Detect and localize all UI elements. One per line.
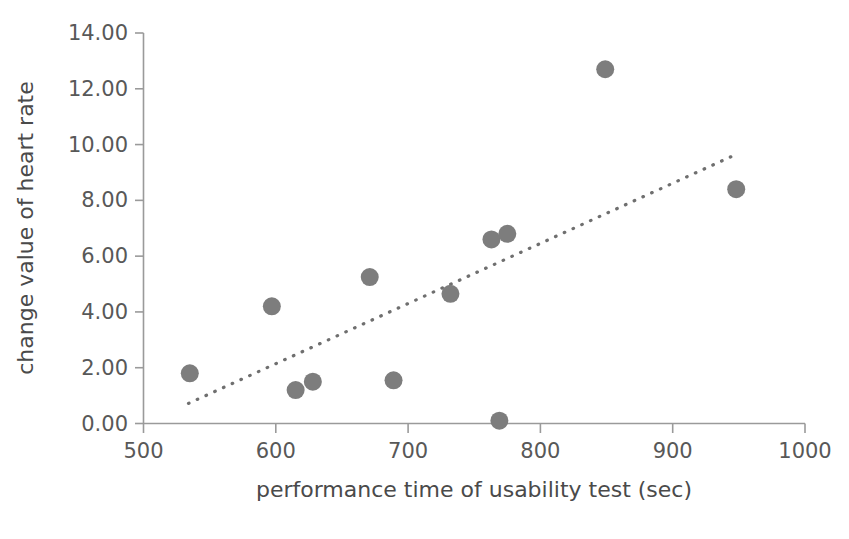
y-axis: 0.002.004.006.008.0010.0012.0014.00 bbox=[68, 21, 144, 436]
y-tick-label: 4.00 bbox=[81, 300, 128, 324]
x-tick-label: 700 bbox=[388, 439, 428, 463]
data-point bbox=[263, 297, 281, 315]
data-point-markers bbox=[181, 60, 745, 429]
y-tick-label: 12.00 bbox=[68, 77, 128, 101]
y-tick-label: 10.00 bbox=[68, 133, 128, 157]
y-tick-marks bbox=[135, 33, 144, 424]
data-point bbox=[490, 412, 508, 430]
chart-figure: 0.002.004.006.008.0010.0012.0014.00 5006… bbox=[0, 0, 849, 539]
x-tick-label: 600 bbox=[256, 439, 296, 463]
x-tick-label: 800 bbox=[520, 439, 560, 463]
y-tick-label: 14.00 bbox=[68, 21, 128, 45]
data-point bbox=[361, 268, 379, 286]
x-tick-label: 1000 bbox=[778, 439, 831, 463]
y-tick-label: 0.00 bbox=[81, 412, 128, 436]
data-point bbox=[727, 180, 745, 198]
y-tick-label: 2.00 bbox=[81, 356, 128, 380]
trendline bbox=[188, 154, 737, 404]
y-tick-label: 6.00 bbox=[81, 244, 128, 268]
x-tick-labels: 5006007008009001000 bbox=[123, 439, 831, 463]
x-axis-title: performance time of usability test (sec) bbox=[256, 477, 692, 502]
data-point bbox=[181, 364, 199, 382]
data-point bbox=[304, 373, 322, 391]
y-axis-title: change value of heart rate bbox=[13, 81, 38, 375]
y-tick-label: 8.00 bbox=[81, 188, 128, 212]
x-axis: 5006007008009001000 bbox=[123, 424, 831, 464]
x-tick-label: 900 bbox=[653, 439, 693, 463]
scatter-plot: 0.002.004.006.008.0010.0012.0014.00 5006… bbox=[0, 0, 849, 539]
data-point bbox=[441, 285, 459, 303]
data-point bbox=[498, 225, 516, 243]
data-point bbox=[385, 371, 403, 389]
x-tick-label: 500 bbox=[123, 439, 163, 463]
data-point bbox=[482, 230, 500, 248]
y-tick-labels: 0.002.004.006.008.0010.0012.0014.00 bbox=[68, 21, 128, 436]
x-tick-marks bbox=[144, 424, 806, 434]
data-point bbox=[596, 60, 614, 78]
data-point bbox=[287, 381, 305, 399]
trendline-group bbox=[188, 154, 737, 404]
